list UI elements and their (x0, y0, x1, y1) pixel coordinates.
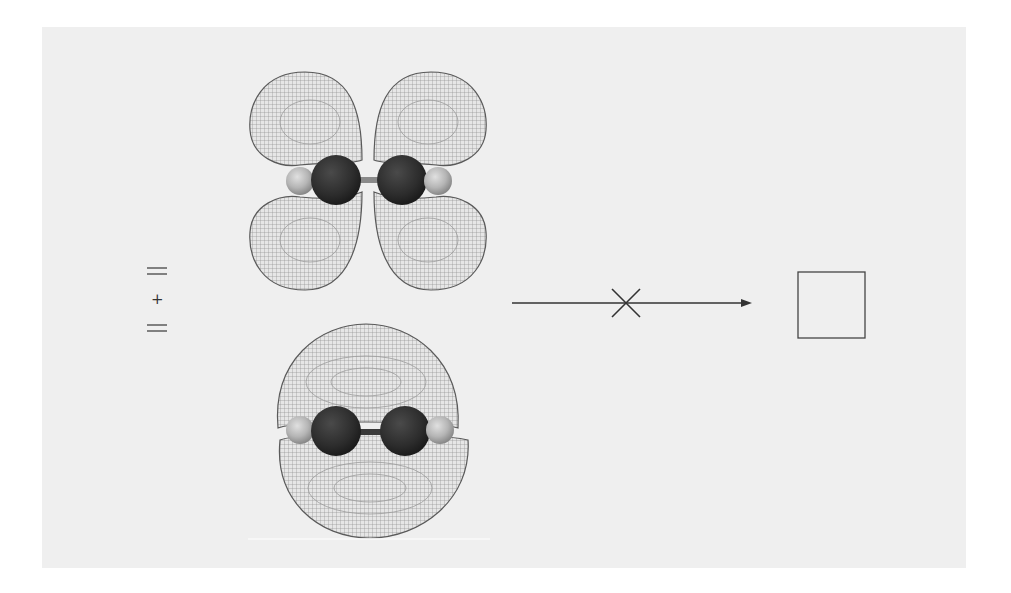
cyclobutane-square (798, 272, 865, 338)
forbidden-reaction-arrow (512, 289, 752, 317)
hydrogen-atom (424, 167, 452, 195)
figure-stage: + (0, 0, 1011, 593)
carbon-atom (311, 406, 361, 456)
reactant-alkene-2 (147, 325, 167, 331)
orbital-lobe (250, 72, 362, 166)
orbital-lobe (374, 192, 486, 290)
reactant-alkene-1 (147, 268, 167, 274)
bottom-orbital-isosurface (277, 324, 468, 538)
orbital-lobe (374, 72, 486, 166)
hydrogen-atom (286, 416, 314, 444)
hydrogen-atom (286, 167, 314, 195)
carbon-atom (380, 406, 430, 456)
hydrogen-atom (426, 416, 454, 444)
orbital-lobe (277, 324, 458, 428)
plus-operator: + (151, 292, 164, 307)
carbon-atom (377, 155, 427, 205)
orbital-lobe (250, 192, 362, 290)
top-orbital-isosurface (250, 72, 486, 290)
carbon-atom (311, 155, 361, 205)
